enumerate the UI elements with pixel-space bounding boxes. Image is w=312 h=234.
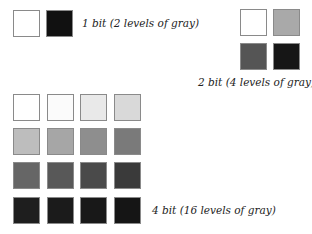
two-bit-label: 2 bit (4 levels of gray): [198, 76, 312, 88]
swatch-4bit-14: [80, 197, 107, 224]
swatch-4bit-15: [114, 197, 141, 224]
swatch-4bit-9: [47, 162, 74, 189]
swatch-4bit-4: [13, 128, 40, 155]
swatch-4bit-13: [47, 197, 74, 224]
swatch-4bit-5: [47, 128, 74, 155]
swatch-4bit-2: [80, 94, 107, 121]
swatch-1bit-1: [46, 10, 73, 37]
swatch-4bit-6: [80, 128, 107, 155]
swatch-2bit-3: [273, 43, 300, 70]
swatch-2bit-2: [240, 43, 267, 70]
one-bit-label: 1 bit (2 levels of gray): [82, 17, 199, 29]
swatch-1bit-0: [13, 10, 40, 37]
swatch-4bit-12: [13, 197, 40, 224]
swatch-4bit-7: [114, 128, 141, 155]
four-bit-label: 4 bit (16 levels of gray): [152, 204, 276, 216]
swatch-4bit-10: [80, 162, 107, 189]
swatch-4bit-11: [114, 162, 141, 189]
swatch-2bit-0: [240, 9, 267, 36]
swatch-4bit-8: [13, 162, 40, 189]
swatch-4bit-1: [47, 94, 74, 121]
swatch-2bit-1: [273, 9, 300, 36]
swatch-4bit-0: [13, 94, 40, 121]
swatch-4bit-3: [114, 94, 141, 121]
